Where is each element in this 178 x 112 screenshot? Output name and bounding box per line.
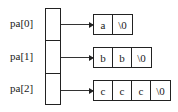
string-box-pa1: b b \0 [93, 47, 152, 68]
arrow-pa0 [61, 24, 93, 25]
label-pa2: pa[2] [10, 82, 44, 94]
label-pa0: pa[0] [10, 17, 44, 29]
string-box-pa0: a \0 [93, 14, 133, 35]
label-pa1: pa[1] [10, 50, 44, 62]
char-cell: \0 [113, 15, 132, 34]
pointer-array-box [45, 8, 61, 105]
string-box-pa2: c c c \0 [93, 80, 171, 101]
pointer-cell-divider [46, 73, 60, 74]
pointer-cell-divider [46, 40, 60, 41]
char-cell: \0 [151, 81, 170, 100]
char-cell: \0 [132, 48, 151, 67]
char-cell: c [94, 81, 113, 100]
char-cell: c [113, 81, 132, 100]
char-cell: b [113, 48, 132, 67]
char-cell: b [94, 48, 113, 67]
char-cell: c [132, 81, 151, 100]
arrow-pa1 [61, 57, 93, 58]
arrow-pa2 [61, 90, 93, 91]
char-cell: a [94, 15, 113, 34]
